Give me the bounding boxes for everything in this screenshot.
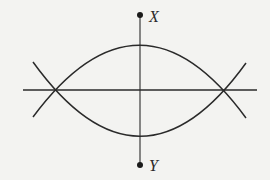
point-y bbox=[137, 162, 143, 168]
label-x: X bbox=[148, 8, 160, 25]
label-y: Y bbox=[149, 157, 160, 174]
diagram-canvas: X Y bbox=[0, 0, 270, 180]
point-x bbox=[137, 12, 143, 18]
construction-svg: X Y bbox=[0, 0, 270, 180]
